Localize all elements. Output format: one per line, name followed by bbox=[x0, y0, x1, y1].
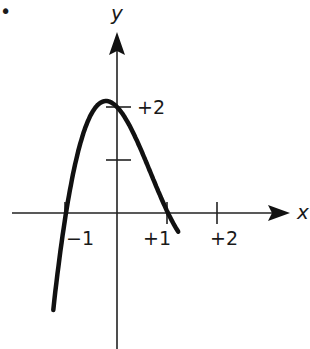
y-axis-label: y bbox=[110, 1, 124, 25]
x-axis-label: x bbox=[296, 200, 309, 224]
x-tick-label-2: +2 bbox=[210, 227, 238, 249]
graph-figure: • x y +2 −1 +1 +2 bbox=[0, 0, 310, 349]
bullet-mark: • bbox=[0, 0, 11, 22]
x-tick-label-neg1: −1 bbox=[66, 227, 94, 249]
y-tick-label-2: +2 bbox=[137, 96, 165, 118]
cubic-curve bbox=[53, 101, 178, 310]
x-tick-label-1: +1 bbox=[143, 227, 171, 249]
